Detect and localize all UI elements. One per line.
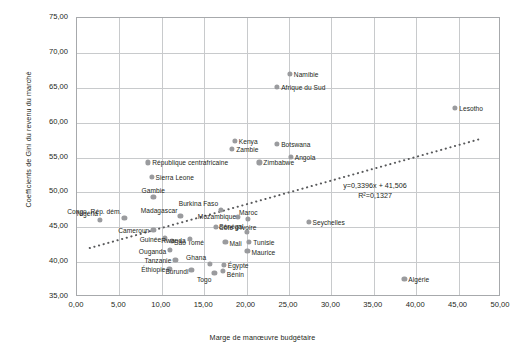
scatter-chart: Coefficients de Gini du revenu du marché… [0,0,525,352]
data-point-label: Madagascar [141,207,178,214]
data-point[interactable] [453,105,458,110]
data-point-label: Sénégal [219,223,244,230]
gridline-vertical [331,18,332,295]
gridline-vertical [119,18,120,295]
data-point[interactable] [247,239,252,244]
data-point[interactable] [178,213,183,218]
data-point[interactable] [245,248,250,253]
data-point-label: Mali [229,239,241,246]
data-point-label: Togo [197,275,212,282]
data-point[interactable] [223,239,228,244]
data-point[interactable] [213,225,218,230]
data-point[interactable] [146,160,151,165]
data-point[interactable] [275,142,280,147]
gridline-vertical [374,18,375,295]
data-point-label: Rwanda [161,237,186,244]
data-point-label: Sierra Leone [156,174,194,181]
data-point[interactable] [208,261,213,266]
data-point-label: Cameroun [118,227,149,234]
data-point-label: Tunisie [253,238,274,245]
data-point[interactable] [221,262,226,267]
data-point[interactable] [168,247,173,252]
data-point[interactable] [149,174,154,179]
y-axis-tick-label: 45,00 [8,221,68,230]
data-point-label: Kenya [239,137,258,144]
data-point-label: Mozambique [198,212,236,219]
gridline-horizontal [77,53,499,54]
data-point[interactable] [287,71,292,76]
y-axis-tick-label: 40,00 [8,256,68,265]
plot-area: NigériaCongo, Rép. dém.CamerounGambieSie… [76,17,500,296]
data-point-label: Ouganda [139,247,166,254]
data-point-label: Algérie [408,275,429,282]
data-point-label: Tanzanie [145,257,172,264]
data-point-label: Seychelles [313,218,345,225]
data-point[interactable] [151,227,156,232]
data-point-label: Égypte [228,261,249,268]
data-point-label: Gambie [142,187,165,194]
gridline-vertical [416,18,417,295]
data-point-label: Zimbabwe [263,159,294,166]
data-point-label: Angola [295,153,316,160]
data-point-label: Zambie [236,146,258,153]
data-point[interactable] [189,267,194,272]
data-point[interactable] [151,195,156,200]
data-point[interactable] [246,216,251,221]
data-point[interactable] [244,230,249,235]
y-axis-tick-label: 55,00 [8,152,68,161]
data-point[interactable] [306,219,311,224]
data-point-label: Maroc [239,208,258,215]
data-point[interactable] [122,216,127,221]
data-point-label: Burundi [165,267,188,274]
data-point[interactable] [257,160,262,165]
y-axis-tick-label: 35,00 [8,291,68,300]
gridline-vertical [459,18,460,295]
gridline-horizontal [77,123,499,124]
trendline-r2-text: R²=0,1327 [343,191,407,201]
data-point[interactable] [212,270,217,275]
data-point-label: Ghana [186,253,206,260]
x-axis-tick-label: 50,00 [470,300,525,309]
data-point[interactable] [220,269,225,274]
gridline-horizontal [77,262,499,263]
data-point-label: Éthiopie [141,266,165,273]
data-point[interactable] [402,276,407,281]
y-axis-tick-label: 70,00 [8,47,68,56]
trendline-equation-text: y=0,3396x + 41,506 [343,181,407,191]
data-point-label: République centrafricaine [152,159,228,166]
trendline-equation: y=0,3396x + 41,506 R²=0,1327 [343,181,407,200]
y-axis-tick-label: 60,00 [8,117,68,126]
gridline-horizontal [77,192,499,193]
gridline-vertical [247,18,248,295]
data-point-label: Lesotho [459,104,483,111]
data-point-label: Burkina Faso [179,199,218,206]
data-point[interactable] [230,147,235,152]
data-point[interactable] [275,84,280,89]
data-point-label: Maurice [251,248,275,255]
data-point-label: Afrique du Sud [281,84,325,91]
data-point-label: Bénin [227,271,244,278]
data-point[interactable] [232,138,237,143]
data-point-label: Congo, Rép. dém. [67,208,121,215]
x-axis-title: Marge de manœuvre budgétaire [0,333,525,342]
y-axis-tick-label: 65,00 [8,82,68,91]
data-point-label: Botswana [281,141,310,148]
data-point-label: Namibie [294,70,319,77]
data-point-label: Guinée [140,236,162,243]
y-axis-tick-label: 75,00 [8,12,68,21]
data-point[interactable] [97,218,102,223]
y-axis-tick-label: 50,00 [8,186,68,195]
